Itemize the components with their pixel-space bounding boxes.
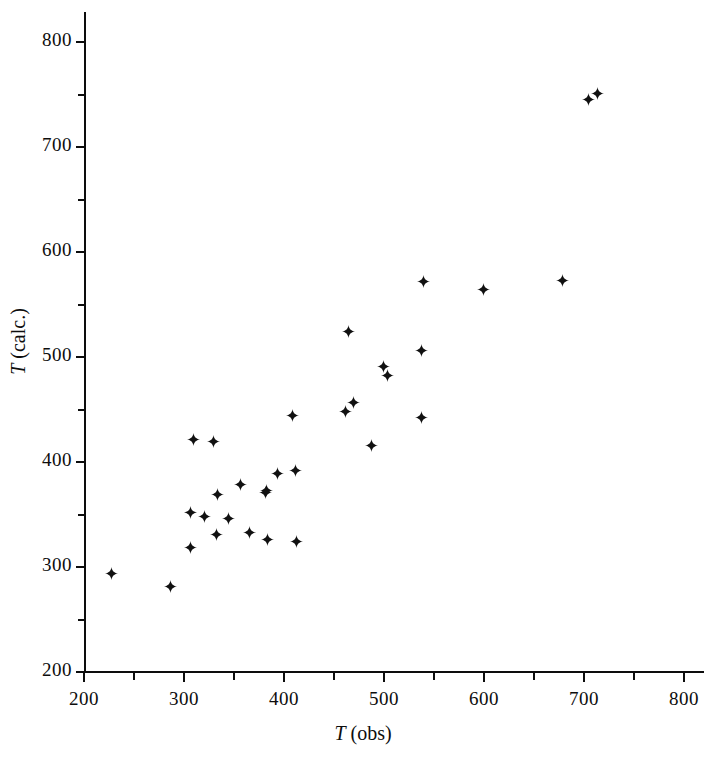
y-tick-major — [76, 461, 85, 463]
y-tick-minor — [78, 619, 85, 621]
y-tick-minor — [78, 94, 85, 96]
data-point — [184, 506, 197, 519]
x-axis-line — [84, 671, 704, 673]
y-tick-label: 700 — [14, 134, 72, 156]
data-point — [198, 510, 211, 523]
data-point — [347, 396, 360, 409]
y-tick-major — [76, 251, 85, 253]
y-axis-line — [84, 12, 86, 673]
y-axis-title-symbol: T — [7, 364, 29, 375]
y-tick-label: 600 — [14, 239, 72, 261]
x-tick-minor — [333, 673, 335, 680]
data-point — [289, 464, 302, 477]
x-tick-minor — [233, 673, 235, 680]
scatter-plot-figure: 200300400500600700800 200300400500600700… — [0, 0, 726, 758]
x-tick-major — [483, 673, 485, 682]
data-point — [243, 526, 256, 539]
x-tick-major — [183, 673, 185, 682]
data-point — [286, 409, 299, 422]
x-tick-minor — [633, 673, 635, 680]
data-point — [365, 439, 378, 452]
data-point — [234, 478, 247, 491]
data-point — [207, 435, 220, 448]
data-point — [164, 580, 177, 593]
x-tick-major — [383, 673, 385, 682]
data-point — [222, 512, 235, 525]
data-point — [417, 275, 430, 288]
y-tick-label: 400 — [14, 449, 72, 471]
data-point — [211, 488, 224, 501]
data-point — [415, 344, 428, 357]
data-point — [187, 433, 200, 446]
y-tick-label: 200 — [14, 659, 72, 681]
x-axis-title-text: (obs) — [346, 722, 392, 744]
y-tick-minor — [78, 409, 85, 411]
data-point — [105, 567, 118, 580]
data-point — [381, 369, 394, 382]
y-tick-minor — [78, 199, 85, 201]
data-point — [556, 274, 569, 287]
data-point — [184, 541, 197, 554]
y-tick-major — [76, 146, 85, 148]
x-tick-minor — [433, 673, 435, 680]
x-tick-major — [683, 673, 685, 682]
x-tick-label: 200 — [49, 688, 119, 710]
data-point — [342, 325, 355, 338]
y-tick-minor — [78, 304, 85, 306]
y-tick-label: 800 — [14, 29, 72, 51]
x-tick-label: 300 — [149, 688, 219, 710]
data-point — [582, 93, 595, 106]
x-tick-minor — [133, 673, 135, 680]
x-tick-label: 500 — [349, 688, 419, 710]
y-tick-minor — [78, 514, 85, 516]
x-tick-major — [583, 673, 585, 682]
x-tick-label: 400 — [249, 688, 319, 710]
x-axis-title: T (obs) — [0, 722, 726, 745]
data-point — [377, 360, 390, 373]
x-axis-title-symbol: T — [334, 722, 345, 744]
data-point — [271, 467, 284, 480]
y-tick-major — [76, 356, 85, 358]
y-tick-major — [76, 41, 85, 43]
x-tick-label: 800 — [649, 688, 719, 710]
data-point — [477, 283, 490, 296]
data-point — [261, 533, 274, 546]
y-axis-title-text: (calc.) — [7, 308, 29, 364]
data-point — [210, 528, 223, 541]
data-point — [415, 411, 428, 424]
y-tick-major — [76, 566, 85, 568]
data-point — [339, 405, 352, 418]
data-point — [259, 486, 272, 499]
y-tick-label: 300 — [14, 554, 72, 576]
x-tick-minor — [533, 673, 535, 680]
data-point — [591, 87, 604, 100]
data-point — [290, 535, 303, 548]
x-tick-label: 700 — [549, 688, 619, 710]
y-axis-title: T (calc.) — [7, 262, 30, 422]
x-tick-label: 600 — [449, 688, 519, 710]
x-tick-major — [83, 673, 85, 682]
data-point — [260, 484, 273, 497]
x-tick-major — [283, 673, 285, 682]
